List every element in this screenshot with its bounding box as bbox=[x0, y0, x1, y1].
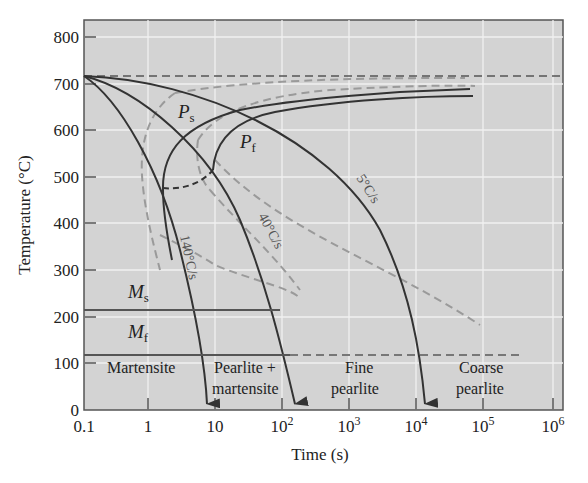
svg-text:100: 100 bbox=[54, 354, 80, 373]
svg-text:800: 800 bbox=[54, 28, 80, 47]
y-tick-labels: 0 100 200 300 400 500 600 700 800 bbox=[54, 28, 80, 420]
svg-text:104: 104 bbox=[405, 414, 428, 436]
svg-text:500: 500 bbox=[54, 168, 80, 187]
region-pearlite-martensite-2: martensite bbox=[212, 380, 279, 397]
region-fine-1: Fine bbox=[345, 359, 373, 376]
region-fine-2: pearlite bbox=[331, 380, 379, 398]
plot-area bbox=[84, 20, 563, 410]
svg-text:103: 103 bbox=[338, 414, 361, 436]
region-pearlite-martensite-1: Pearlite + bbox=[214, 359, 276, 376]
svg-text:200: 200 bbox=[54, 308, 80, 327]
svg-text:1: 1 bbox=[144, 417, 153, 436]
svg-text:300: 300 bbox=[54, 261, 80, 280]
y-axis-title: Temperature (°C) bbox=[15, 155, 34, 274]
svg-text:700: 700 bbox=[54, 75, 80, 94]
svg-text:105: 105 bbox=[472, 414, 495, 436]
svg-text:106: 106 bbox=[542, 414, 565, 436]
svg-text:10: 10 bbox=[207, 417, 224, 436]
svg-text:102: 102 bbox=[271, 414, 294, 436]
svg-text:400: 400 bbox=[54, 214, 80, 233]
x-axis-title: Time (s) bbox=[291, 445, 348, 464]
region-coarse-2: pearlite bbox=[456, 380, 504, 398]
region-martensite: Martensite bbox=[107, 359, 175, 376]
region-coarse-1: Coarse bbox=[459, 359, 503, 376]
cct-diagram: Ps Pf Ms Mf 140°C/s 40°C/s 5°C/s Martens… bbox=[0, 0, 588, 483]
svg-text:600: 600 bbox=[54, 121, 80, 140]
x-tick-labels: 0.1 1 10 102 103 104 105 106 bbox=[73, 414, 564, 436]
svg-text:0.1: 0.1 bbox=[73, 417, 94, 436]
